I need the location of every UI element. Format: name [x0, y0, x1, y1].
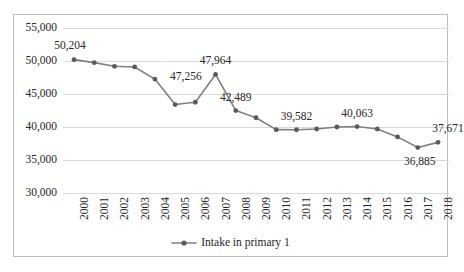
data-point-marker — [415, 145, 420, 150]
y-axis-tick-label: 50,000 — [25, 55, 57, 67]
data-point-marker — [334, 125, 339, 130]
y-axis-tick-label: 45,000 — [25, 88, 57, 100]
data-point-marker — [233, 108, 238, 113]
data-point-marker — [112, 64, 117, 69]
data-point-marker — [72, 57, 77, 62]
x-axis-tick-label: 2018 — [443, 197, 455, 220]
chart-legend: Intake in primary 1 — [14, 237, 447, 249]
data-point-marker — [375, 127, 380, 132]
data-point-marker — [314, 127, 319, 132]
data-point-label: 39,582 — [281, 111, 313, 123]
y-axis-tick-label: 55,000 — [25, 22, 57, 34]
y-axis-tick-label: 40,000 — [25, 121, 57, 133]
data-point-marker — [274, 127, 279, 132]
data-point-label: 47,964 — [200, 56, 232, 68]
x-axis-tick-label: 2002 — [119, 197, 131, 220]
data-point-marker — [294, 127, 299, 132]
x-axis-tick-label: 2013 — [342, 197, 354, 220]
x-axis-tick-label: 2016 — [403, 197, 415, 220]
x-axis-tick-label: 2015 — [382, 197, 394, 220]
x-axis-tick-label: 2012 — [322, 197, 334, 220]
y-axis-tick-label: 30,000 — [25, 187, 57, 199]
x-axis-tick-label: 2000 — [79, 197, 91, 220]
chart-figure: 55,00050,00045,00040,00035,00030,000 50,… — [13, 14, 448, 257]
legend-label-intake-in-primary-1: Intake in primary 1 — [201, 237, 289, 249]
data-point-label: 50,204 — [54, 40, 86, 52]
x-axis-tick-label: 2014 — [362, 197, 374, 220]
x-axis-tick-label: 2007 — [221, 197, 233, 220]
x-axis-tick-label: 2008 — [241, 197, 253, 220]
x-axis-tick-label: 2006 — [200, 197, 212, 220]
data-point-marker — [132, 65, 137, 70]
x-axis-tick-label: 2010 — [281, 197, 293, 220]
data-point-marker — [92, 60, 97, 65]
x-axis-tick-label: 2001 — [99, 197, 111, 220]
data-point-marker — [395, 135, 400, 140]
series-markers — [72, 57, 441, 150]
x-axis-tick-label: 2017 — [423, 197, 435, 220]
x-axis-tick-label: 2005 — [180, 197, 192, 220]
x-axis-tick-label: 2004 — [160, 197, 172, 220]
data-point-marker — [173, 102, 178, 107]
y-axis-tick-label: 35,000 — [25, 154, 57, 166]
x-axis-tick-label: 2009 — [261, 197, 273, 220]
plot-area: 55,00050,00045,00040,00035,00030,000 50,… — [63, 28, 449, 193]
x-axis-tick-label: 2011 — [301, 197, 313, 220]
series-layer — [63, 28, 449, 193]
series-line-intake-in-primary-1 — [74, 60, 438, 148]
data-point-label: 47,256 — [170, 71, 202, 83]
data-point-marker — [193, 100, 198, 105]
data-point-label: 37,671 — [432, 124, 464, 136]
legend-marker-icon — [171, 238, 197, 248]
gridline — [63, 193, 449, 194]
data-point-marker — [355, 124, 360, 129]
data-point-marker — [436, 140, 441, 145]
data-point-marker — [254, 115, 259, 120]
data-point-label: 40,063 — [341, 108, 373, 120]
x-axis: 2000200120022003200420052006200720082009… — [63, 195, 449, 239]
data-point-label: 36,885 — [404, 156, 436, 168]
data-point-label: 42,489 — [220, 92, 252, 104]
data-point-marker — [213, 72, 218, 77]
x-axis-tick-label: 2003 — [140, 197, 152, 220]
data-point-marker — [152, 77, 157, 82]
